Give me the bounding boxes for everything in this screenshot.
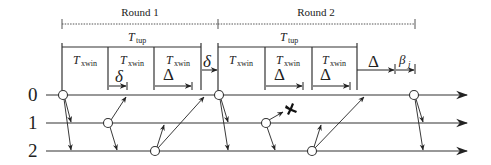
svg-text:Δ: Δ <box>274 65 285 84</box>
svg-text:tup: tup <box>136 36 146 45</box>
delta-big-gap: Δ <box>357 52 395 74</box>
svg-text:xwin: xwin <box>237 59 253 68</box>
svg-text:T: T <box>120 53 128 67</box>
ttup-label-1: T tup <box>128 30 146 45</box>
svg-text:Δ: Δ <box>320 65 331 84</box>
svg-text:2: 2 <box>28 140 38 161</box>
svg-text:0: 0 <box>28 84 38 105</box>
delta-big-interval-2: Δ <box>266 65 303 90</box>
collision-cross-icon <box>285 103 297 115</box>
tx-node-0-round2 <box>215 91 224 100</box>
round-2-bracket: Round 2 <box>218 6 415 29</box>
svg-text:Δ: Δ <box>368 52 379 71</box>
svg-text:xwin: xwin <box>284 59 300 68</box>
tx-node-1-round1 <box>104 119 113 128</box>
txwin-label: Txwin <box>229 53 253 68</box>
svg-text:1: 1 <box>28 112 38 133</box>
node-2-timeline: 2 <box>28 140 467 161</box>
timing-diagram: Round 1 Round 2 T tup T tup Txwin Txwin … <box>0 0 491 165</box>
tx-node-0-round3 <box>410 91 419 100</box>
delta-big-interval-3: Δ <box>313 65 350 90</box>
beta-j-interval: β j <box>396 52 415 74</box>
svg-text:T: T <box>280 30 288 44</box>
svg-text:δ: δ <box>203 52 212 71</box>
ttup-label-2: T tup <box>280 30 298 45</box>
delta-small-gap: δ <box>202 52 217 71</box>
svg-text:T: T <box>73 53 81 67</box>
txwin-label: Txwin <box>120 53 144 68</box>
svg-text:T: T <box>128 30 136 44</box>
svg-text:tup: tup <box>288 36 298 45</box>
svg-text:Δ: Δ <box>163 65 174 84</box>
svg-text:T: T <box>229 53 237 67</box>
tx-node-0-round1 <box>59 91 68 100</box>
svg-text:xwin: xwin <box>330 59 346 68</box>
round-2-label: Round 2 <box>297 6 335 18</box>
txwin-label: Txwin <box>73 53 97 68</box>
svg-text:xwin: xwin <box>128 59 144 68</box>
tx-node-1-round2 <box>262 119 271 128</box>
node-1-timeline: 1 <box>28 112 467 133</box>
svg-text:xwin: xwin <box>174 59 190 68</box>
round-1-label: Round 1 <box>121 6 159 18</box>
svg-text:δ: δ <box>115 67 124 86</box>
delta-small-interval-1: δ <box>109 67 127 90</box>
svg-text:j: j <box>407 59 411 69</box>
tx-node-2-round2 <box>308 147 317 156</box>
svg-text:xwin: xwin <box>81 59 97 68</box>
round-1-bracket: Round 1 <box>62 6 218 29</box>
svg-text:β: β <box>398 52 406 67</box>
node-0-timeline: 0 <box>28 84 467 105</box>
tx-node-2-round1 <box>151 147 160 156</box>
delta-big-interval-1: Δ <box>155 65 192 90</box>
